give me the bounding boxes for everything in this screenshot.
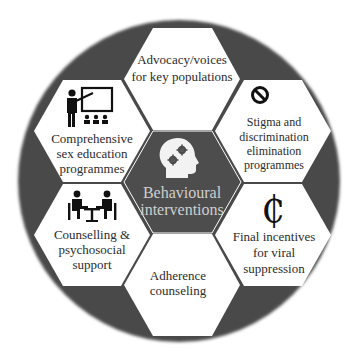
label-line: Behavioural [143, 184, 222, 201]
label-line: support [73, 257, 112, 272]
label-line: discrimination [239, 130, 308, 144]
label-upper-left: Comprehensive sex education programmes [51, 131, 133, 176]
label-center: Behavioural interventions [140, 184, 224, 218]
label-bottom: Adherence counseling [150, 268, 207, 298]
label-line: Counselling & [54, 227, 130, 242]
label-line: programmes [244, 158, 304, 172]
label-line: elimination [247, 144, 302, 158]
label-line: Final incentives [233, 229, 316, 244]
behavioural-interventions-diagram: ₵ Advocacy/voices for key populations Co… [0, 0, 357, 354]
label-line: interventions [140, 201, 224, 218]
cent-sign-icon: ₵ [261, 187, 285, 231]
label-line: sex education [56, 146, 128, 161]
label-line: for viral [253, 245, 296, 260]
label-line: psychosocial [58, 242, 126, 257]
label-line: for key populations [131, 69, 232, 84]
label-line: programmes [60, 161, 125, 176]
label-line: suppression [243, 261, 305, 276]
label-line: Adherence [150, 268, 207, 283]
label-upper-right: Stigma and discrimination elimination pr… [239, 115, 308, 172]
label-line: counseling [150, 283, 207, 298]
label-line: Comprehensive [51, 131, 133, 146]
label-line: Stigma and [247, 115, 301, 129]
label-line: Advocacy/voices [137, 52, 227, 67]
